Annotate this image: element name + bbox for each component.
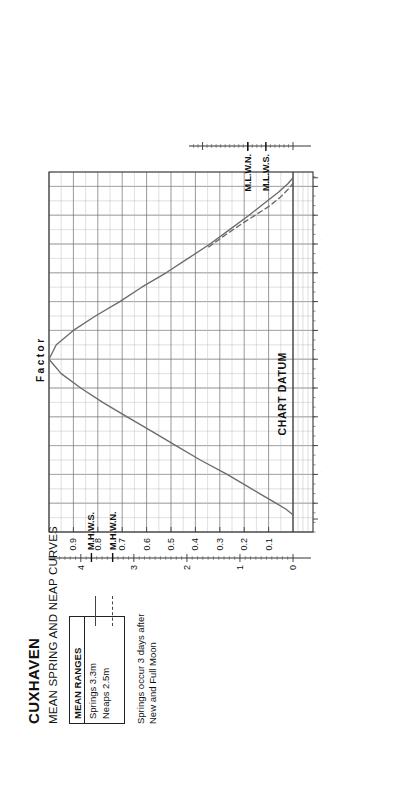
factor-tick-label: 0.7	[117, 538, 127, 551]
springs-note-line2: New and Full Moon	[147, 642, 158, 724]
factor-tick-label: 0.5	[166, 538, 176, 551]
time-axis-tick-label: +4ʰ	[320, 237, 321, 251]
time-axis-tick-label: -1ʰ	[320, 382, 321, 394]
page-title: CUXHAVEN	[25, 638, 42, 724]
factor-tick-label: 0.2	[239, 538, 249, 551]
spring-curve	[49, 178, 293, 515]
factor-tick-label: 0.1	[263, 538, 273, 551]
hw-height-tick-label: 4	[75, 565, 85, 570]
legend-neaps-line-sample	[112, 596, 113, 626]
diagram-landscape-canvas: CUXHAVEN MEAN SPRING AND NEAP CURVES MEA…	[17, 2, 389, 742]
hw-height-tick-label: 1	[234, 565, 244, 570]
factor-axis-title: Factor	[35, 336, 46, 382]
factor-tick-label: 0.4	[190, 538, 200, 551]
time-axis-anchor-label: L.W	[320, 510, 321, 527]
hw-height-tick-label: 3	[128, 565, 138, 570]
lw-marker-label: M.L.W.S.	[260, 154, 270, 191]
chart-datum-label: CHART DATUM	[276, 352, 288, 435]
hw-marker-label: M.H.W.N.	[107, 512, 117, 551]
factor-tick-label: 0.6	[141, 538, 151, 551]
time-axis-tick-label: -2ʰ	[320, 411, 321, 423]
time-axis-tick-label: -4ʰ	[320, 468, 321, 480]
legend-springs-line-sample	[95, 596, 96, 626]
time-axis-tick-label: +5ʰ	[320, 208, 321, 222]
lw-marker-label: M.L.W.N.	[242, 154, 252, 192]
tidal-curve-page: CUXHAVEN MEAN SPRING AND NEAP CURVES MEA…	[0, 0, 405, 793]
factor-tick-label: 0.3	[214, 538, 224, 551]
time-axis-tick-label: +3ʰ	[320, 265, 321, 279]
time-axis-tick-label: -5ʰ	[320, 497, 321, 509]
springs-note: Springs occur 3 days after New and Full …	[135, 614, 159, 724]
springs-note-line1: Springs occur 3 days after	[135, 614, 146, 724]
legend-box: MEAN RANGES Springs 3.3m Neaps 2.5m	[69, 616, 125, 724]
time-axis-tick-label: +2ʰ	[320, 294, 321, 308]
plot-frame	[49, 172, 313, 532]
legend-neaps-label: Neaps 2.5m	[98, 617, 111, 723]
time-axis-anchor-label: H.W	[320, 350, 321, 368]
hw-height-tick-label: 2	[181, 565, 191, 570]
tidal-curve-svg: Factor0.10.20.30.40.50.60.70.80.9H.W-1ʰ-…	[31, 142, 321, 572]
legend-springs-label: Springs 3.3m	[85, 617, 98, 723]
time-axis-tick-label: -3ʰ	[320, 439, 321, 451]
factor-tick-label: 0.9	[68, 538, 78, 551]
hw-height-tick-label: 0	[288, 565, 298, 570]
time-axis-anchor-label: L.W	[320, 169, 321, 186]
tidal-curve-plot: Factor0.10.20.30.40.50.60.70.80.9H.W-1ʰ-…	[31, 142, 321, 572]
legend-header: MEAN RANGES	[70, 617, 85, 723]
hw-marker-label: M.H.W.S.	[86, 512, 96, 550]
time-axis-tick-label: +1ʰ	[320, 323, 321, 337]
